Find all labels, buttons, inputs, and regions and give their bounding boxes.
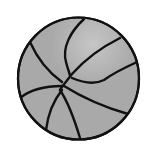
basketball-icon bbox=[0, 0, 159, 163]
basketball-illustration bbox=[0, 0, 159, 163]
